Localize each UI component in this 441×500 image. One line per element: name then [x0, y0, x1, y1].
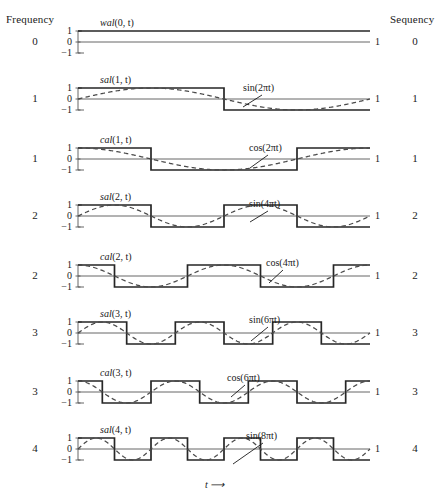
y-tick-label: 0	[58, 386, 72, 397]
waveform-canvas	[0, 0, 441, 500]
y-tick-label: 1	[58, 25, 72, 36]
sinusoid-annotation: sin(6πt)	[249, 314, 280, 325]
walsh-function-name: cal	[100, 367, 112, 378]
walsh-function-args: (1, t)	[112, 134, 131, 145]
sequency-value: 2	[404, 209, 426, 221]
walsh-function-label: cal(1, t)	[100, 134, 132, 145]
x-axis-label: t ⟶	[205, 479, 224, 490]
walsh-function-label: sal(4, t)	[100, 424, 131, 435]
walsh-function-name: sal	[100, 424, 112, 435]
y-tick-label: 1	[58, 432, 72, 443]
sinusoid-annotation: sin(4πt)	[249, 198, 280, 209]
sinusoid-annotation: cos(2πt)	[249, 142, 282, 153]
frequency-value: 1	[24, 92, 46, 104]
x-end-tick-label: 1	[375, 210, 380, 221]
frequency-value: 3	[24, 326, 46, 338]
sinusoid-annotation: sin(8πt)	[246, 430, 277, 441]
y-tick-label: −1	[58, 338, 72, 349]
y-tick-label: 1	[58, 316, 72, 327]
walsh-function-label: sal(2, t)	[100, 191, 131, 202]
y-tick-label: 1	[58, 375, 72, 386]
sequency-value: 1	[404, 152, 426, 164]
sinusoid-annotation: sin(2πt)	[243, 82, 274, 93]
y-tick-label: 1	[58, 82, 72, 93]
frequency-value: 0	[24, 35, 46, 47]
sinusoid-annotation: cos(4πt)	[266, 257, 299, 268]
x-end-tick-label: 1	[375, 386, 380, 397]
walsh-function-args: (2, t)	[112, 191, 131, 202]
y-tick-label: 1	[58, 199, 72, 210]
walsh-function-label: cal(3, t)	[100, 367, 132, 378]
walsh-function-args: (0, t)	[114, 17, 133, 28]
walsh-function-label: sal(3, t)	[100, 308, 131, 319]
walsh-function-args: (3, t)	[112, 308, 131, 319]
y-tick-label: −1	[58, 47, 72, 58]
walsh-function-name: sal	[100, 191, 112, 202]
sinusoid-annotation: cos(6πt)	[227, 372, 260, 383]
frequency-value: 3	[24, 385, 46, 397]
walsh-function-args: (3, t)	[112, 367, 131, 378]
walsh-function-figure: Frequency Sequency 10−11wal(0, t)0010−11…	[0, 0, 441, 500]
y-tick-label: 1	[58, 259, 72, 270]
frequency-value: 2	[24, 269, 46, 281]
y-tick-label: 0	[58, 210, 72, 221]
frequency-value: 4	[24, 442, 46, 454]
y-tick-label: 0	[58, 153, 72, 164]
walsh-function-name: sal	[100, 308, 112, 319]
y-tick-label: −1	[58, 454, 72, 465]
y-tick-label: 0	[58, 270, 72, 281]
y-tick-label: −1	[58, 397, 72, 408]
y-tick-label: −1	[58, 164, 72, 175]
x-end-tick-label: 1	[375, 270, 380, 281]
sequency-value: 2	[404, 269, 426, 281]
y-tick-label: 1	[58, 142, 72, 153]
y-tick-label: 0	[58, 93, 72, 104]
y-tick-label: 0	[58, 36, 72, 47]
y-tick-label: −1	[58, 104, 72, 115]
sequency-value: 1	[404, 92, 426, 104]
y-tick-label: −1	[58, 281, 72, 292]
walsh-function-args: (4, t)	[112, 424, 131, 435]
x-end-tick-label: 1	[375, 93, 380, 104]
sequency-value: 3	[404, 326, 426, 338]
sequency-value: 0	[404, 35, 426, 47]
frequency-value: 1	[24, 152, 46, 164]
walsh-function-name: cal	[100, 251, 112, 262]
x-end-tick-label: 1	[375, 153, 380, 164]
walsh-function-args: (1, t)	[112, 74, 131, 85]
walsh-function-args: (2, t)	[112, 251, 131, 262]
walsh-function-name: sal	[100, 74, 112, 85]
walsh-function-name: cal	[100, 134, 112, 145]
sequency-value: 3	[404, 385, 426, 397]
y-tick-label: −1	[58, 221, 72, 232]
walsh-function-label: cal(2, t)	[100, 251, 132, 262]
y-tick-label: 0	[58, 443, 72, 454]
sequency-value: 4	[404, 442, 426, 454]
x-end-tick-label: 1	[375, 36, 380, 47]
x-end-tick-label: 1	[375, 327, 380, 338]
x-end-tick-label: 1	[375, 443, 380, 454]
walsh-function-name: wal	[100, 17, 114, 28]
y-tick-label: 0	[58, 327, 72, 338]
walsh-function-label: wal(0, t)	[100, 17, 134, 28]
frequency-value: 2	[24, 209, 46, 221]
walsh-function-label: sal(1, t)	[100, 74, 131, 85]
